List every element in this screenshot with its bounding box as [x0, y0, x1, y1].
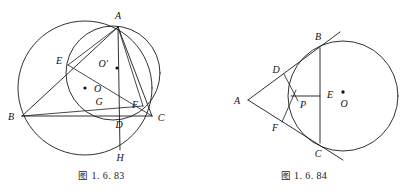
- point-O-prime-dot: [115, 66, 118, 69]
- label-O: O: [340, 98, 347, 109]
- label-C: C: [158, 112, 165, 123]
- figure-1-6-84-canvas: A B C D E F P O: [203, 0, 405, 168]
- label-F: F: [271, 122, 279, 133]
- label-H: H: [115, 152, 124, 163]
- altitude-AH: [118, 27, 120, 150]
- side-AB: [22, 27, 118, 116]
- figure-1-6-84-caption: 图 1. 6. 84: [203, 168, 405, 182]
- label-F: F: [131, 99, 139, 110]
- caption-number-right: 1. 6. 84: [294, 170, 327, 181]
- chord-AE: [68, 27, 118, 65]
- figure-1-6-83-canvas: A B C D E F G H O O′: [0, 0, 203, 168]
- label-D: D: [271, 64, 280, 75]
- label-P: P: [299, 99, 306, 110]
- tangent-AC: [248, 100, 343, 160]
- label-B: B: [8, 111, 14, 122]
- cevian-BF: [22, 106, 143, 116]
- caption-cjk-right: 图: [281, 170, 291, 181]
- point-O-dot: [341, 90, 344, 93]
- point-O-dot: [83, 86, 86, 89]
- nine-point-circle: [66, 26, 160, 120]
- segment-PF: [282, 90, 296, 122]
- label-O: O: [94, 83, 101, 94]
- label-G: G: [95, 96, 102, 107]
- figure-1-6-84: A B C D E F P O 图 1. 6. 84: [203, 0, 405, 191]
- label-E: E: [326, 89, 333, 100]
- label-O-prime: O′: [99, 58, 109, 69]
- label-B: B: [315, 31, 321, 42]
- figure-sheet: A B C D E F G H O O′ 图 1. 6. 83: [0, 0, 405, 191]
- label-D: D: [114, 119, 123, 130]
- caption-number-left: 1. 6. 83: [92, 170, 125, 181]
- figure-1-6-83-caption: 图 1. 6. 83: [0, 168, 203, 182]
- label-E: E: [55, 55, 62, 66]
- caption-cjk-left: 图: [78, 170, 88, 181]
- label-C: C: [315, 148, 322, 159]
- figure-1-6-83: A B C D E F G H O O′ 图 1. 6. 83: [0, 0, 203, 191]
- label-A: A: [114, 10, 122, 21]
- label-A: A: [233, 95, 241, 106]
